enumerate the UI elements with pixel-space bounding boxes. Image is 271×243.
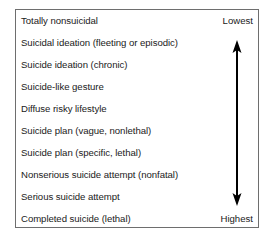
- spectrum-item: Diffuse risky lifestyle: [21, 103, 107, 115]
- spectrum-item: Suicidal ideation (fleeting or episodic): [21, 37, 178, 49]
- spectrum-item: Suicide plan (specific, lethal): [21, 147, 141, 159]
- spectrum-item: Nonserious suicide attempt (nonfatal): [21, 169, 178, 181]
- spectrum-item: Totally nonsuicidal: [21, 15, 98, 27]
- scale-top-label: Lowest: [223, 15, 253, 27]
- spectrum-item: Suicide ideation (chronic): [21, 59, 127, 71]
- spectrum-item: Suicide-like gesture: [21, 81, 104, 93]
- spectrum-item: Serious suicide attempt: [21, 191, 120, 203]
- scale-bottom-label: Highest: [220, 213, 253, 225]
- double-arrow-icon: [230, 40, 244, 206]
- spectrum-item: Completed suicide (lethal): [21, 213, 131, 225]
- spectrum-item: Suicide plan (vague, nonlethal): [21, 125, 151, 137]
- spectrum-box: Totally nonsuicidal Suicidal ideation (f…: [15, 9, 259, 228]
